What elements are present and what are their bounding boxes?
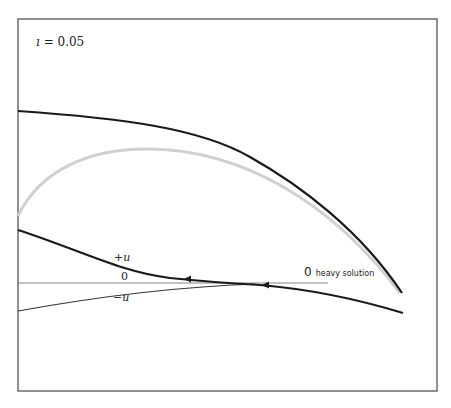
heavy-zero: 0 xyxy=(304,265,312,279)
minus-u-line xyxy=(18,284,255,311)
parameter-label: ı = 0.05 xyxy=(36,36,84,48)
frame xyxy=(18,19,437,391)
arrow-left-icon xyxy=(184,276,191,283)
zero-label: 0 xyxy=(121,271,128,282)
heavy-solution-label: 0heavy solution xyxy=(304,266,374,278)
diagram-canvas: ı = 0.05 +u 0 −u 0heavy solution xyxy=(0,0,451,408)
minus-u-label: −u xyxy=(113,292,129,303)
heavy-text: heavy solution xyxy=(316,269,375,278)
diagram-svg xyxy=(0,0,451,408)
parameter-value: = 0.05 xyxy=(40,35,84,49)
plus-u-label: +u xyxy=(114,252,130,263)
